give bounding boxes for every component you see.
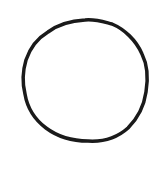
drawing-canvas — [0, 0, 166, 174]
hand-drawn-circle — [23, 20, 147, 141]
